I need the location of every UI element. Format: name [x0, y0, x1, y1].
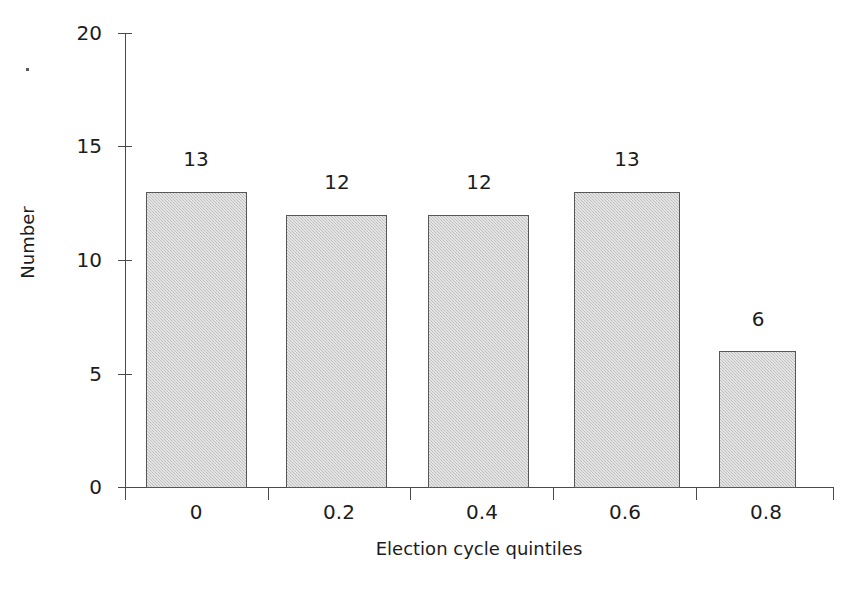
bar-quintile-0[interactable]: [146, 192, 247, 488]
y-tick-20: [118, 33, 132, 34]
bar-value-label-0-4: 12: [419, 171, 539, 193]
x-tick-label-0-8: 0.8: [706, 500, 826, 524]
bar-value-label-0: 13: [136, 148, 256, 170]
bar-chart: 20 15 10 5 0 0 0.2 0.4 0.6 0.8 13 12 12 …: [0, 0, 863, 597]
x-axis-title: Election cycle quintiles: [125, 538, 833, 559]
y-tick-label-15: 15: [46, 136, 102, 156]
y-tick-label-10: 10: [46, 250, 102, 270]
bar-quintile-0-6[interactable]: [574, 192, 680, 488]
y-tick-15: [118, 146, 132, 147]
y-tick-label-5: 5: [46, 364, 102, 384]
x-tick-label-0: 0: [136, 500, 256, 524]
y-tick-label-0: 0: [46, 477, 102, 497]
x-tick-4: [696, 487, 697, 500]
scan-artifact-speck: [26, 68, 29, 71]
x-tick-label-0-6: 0.6: [565, 500, 685, 524]
x-tick-2: [410, 487, 411, 500]
bar-value-label-0-8: 6: [698, 308, 818, 330]
x-tick-label-0-4: 0.4: [422, 500, 542, 524]
bar-value-label-0-2: 12: [277, 171, 397, 193]
x-tick-1: [268, 487, 269, 500]
x-tick-0: [125, 487, 126, 500]
y-tick-5: [118, 374, 132, 375]
bar-value-label-0-6: 13: [567, 148, 687, 170]
y-tick-label-20: 20: [46, 23, 102, 43]
bar-quintile-0-8[interactable]: [719, 351, 796, 488]
bar-quintile-0-4[interactable]: [428, 215, 529, 488]
y-axis-title: Number: [17, 193, 38, 293]
x-tick-5: [833, 487, 834, 500]
y-tick-10: [118, 260, 132, 261]
x-tick-label-0-2: 0.2: [279, 500, 399, 524]
bar-quintile-0-2[interactable]: [286, 215, 387, 488]
x-tick-3: [553, 487, 554, 500]
